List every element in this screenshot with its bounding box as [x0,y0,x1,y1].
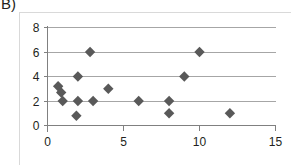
data-point [225,108,235,118]
data-point [164,108,174,118]
data-point [71,111,81,121]
y-tick-label-0: 0 [33,119,40,133]
axes [48,26,276,132]
data-series-1 [53,47,235,121]
chart-panel: B) 02468051015 [0,0,292,166]
data-point [88,96,98,106]
x-tick-label-15: 15 [269,135,283,149]
data-point [103,84,113,94]
y-tick-label-2: 2 [33,95,40,109]
scatter-plot: 02468051015 [0,0,292,166]
data-point [164,96,174,106]
x-tick-label-0: 0 [44,135,51,149]
y-tick-label-8: 8 [33,21,40,35]
data-point [134,96,144,106]
x-axis-ticks: 051015 [44,126,282,149]
data-point [179,71,189,81]
y-tick-label-6: 6 [33,46,40,60]
plot-svg: 02468051015 [0,0,292,166]
x-tick-label-5: 5 [120,135,127,149]
y-axis-ticks: 02468 [33,21,48,133]
data-point [85,47,95,57]
data-point [73,96,83,106]
data-point [194,47,204,57]
data-point [73,71,83,81]
x-tick-label-10: 10 [193,135,207,149]
data-point [58,96,68,106]
y-tick-label-4: 4 [33,70,40,84]
